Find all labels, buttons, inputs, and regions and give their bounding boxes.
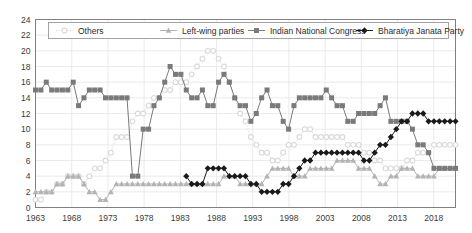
- data-point-marker: [432, 142, 437, 147]
- data-point-marker: [87, 174, 92, 179]
- data-point-marker: [388, 119, 393, 124]
- x-axis-tick-label: 1963: [26, 213, 45, 223]
- data-point-marker: [254, 28, 259, 33]
- data-point-marker: [44, 80, 49, 85]
- data-point-marker: [378, 158, 383, 163]
- y-axis-tick-label: 6: [26, 156, 31, 166]
- data-point-marker: [259, 189, 265, 195]
- data-point-marker: [286, 142, 291, 147]
- data-point-marker: [393, 126, 399, 132]
- data-point-marker: [452, 118, 458, 124]
- data-point-marker: [372, 149, 378, 155]
- legend-label-bjp: Bharatiya Janata Party: [378, 26, 465, 36]
- data-point-marker: [318, 95, 323, 100]
- election-seat-share-chart: 0246810121416182022241963196819731978198…: [0, 0, 472, 233]
- x-axis-tick-label: 1983: [171, 213, 190, 223]
- data-point-marker: [146, 127, 151, 132]
- y-axis-tick-label: 24: [21, 15, 31, 25]
- chart-legend: OthersLeft-wing partiesIndian National C…: [49, 23, 465, 39]
- data-point-marker: [221, 165, 227, 171]
- data-point-marker: [130, 174, 135, 179]
- data-point-marker: [329, 149, 335, 155]
- data-point-marker: [221, 72, 226, 77]
- legend-label-others: Others: [78, 26, 104, 36]
- data-point-marker: [184, 88, 189, 93]
- data-point-marker: [200, 88, 205, 93]
- data-point-marker: [62, 28, 67, 33]
- data-point-marker: [323, 149, 329, 155]
- data-point-marker: [372, 158, 377, 163]
- data-point-marker: [313, 135, 318, 140]
- data-point-marker: [243, 103, 248, 108]
- y-axis-tick-label: 16: [21, 77, 31, 87]
- data-point-marker: [329, 95, 334, 100]
- data-point-marker: [355, 149, 361, 155]
- data-point-marker: [141, 127, 146, 132]
- data-point-marker: [334, 149, 340, 155]
- data-point-marker: [335, 103, 340, 108]
- data-point-marker: [265, 150, 270, 155]
- data-point-marker: [98, 88, 103, 93]
- data-point-marker: [335, 135, 340, 140]
- data-point-marker: [388, 166, 393, 171]
- data-point-marker: [173, 80, 178, 85]
- data-point-marker: [415, 142, 420, 147]
- data-point-marker: [108, 150, 113, 155]
- y-axis-tick-label: 12: [21, 109, 31, 119]
- data-point-marker: [448, 142, 453, 147]
- data-point-marker: [377, 142, 383, 148]
- data-point-marker: [33, 197, 38, 202]
- data-point-marker: [103, 158, 108, 163]
- data-point-marker: [259, 95, 264, 100]
- data-point-marker: [366, 157, 372, 163]
- data-point-marker: [81, 95, 86, 100]
- data-point-marker: [420, 110, 426, 116]
- data-point-marker: [183, 173, 189, 179]
- data-point-marker: [125, 95, 130, 100]
- data-point-marker: [270, 103, 275, 108]
- data-point-marker: [361, 157, 367, 163]
- y-axis-tick-label: 10: [21, 124, 31, 134]
- data-point-marker: [280, 181, 286, 187]
- x-axis-tick-label: 2018: [424, 213, 443, 223]
- data-point-marker: [356, 142, 361, 147]
- data-point-marker: [130, 119, 135, 124]
- data-point-marker: [216, 56, 221, 61]
- data-point-marker: [200, 56, 205, 61]
- data-point-marker: [238, 103, 243, 108]
- data-point-marker: [340, 103, 345, 108]
- series-left_wing: [33, 158, 459, 202]
- data-point-marker: [453, 142, 458, 147]
- data-point-marker: [151, 103, 156, 108]
- data-point-marker: [141, 111, 146, 116]
- legend-label-congress: Indian National Congress: [270, 26, 365, 36]
- data-point-marker: [248, 119, 253, 124]
- data-point-marker: [431, 166, 436, 171]
- data-point-marker: [259, 150, 264, 155]
- y-axis-tick-label: 4: [26, 171, 31, 181]
- data-point-marker: [205, 103, 210, 108]
- data-point-marker: [351, 119, 356, 124]
- data-point-marker: [345, 149, 351, 155]
- data-point-marker: [302, 127, 307, 132]
- data-point-marker: [410, 127, 415, 132]
- x-axis-tick-label: 1988: [207, 213, 226, 223]
- data-point-marker: [286, 127, 291, 132]
- data-point-marker: [232, 95, 237, 100]
- x-axis-tick-label: 1978: [135, 213, 154, 223]
- data-point-marker: [453, 166, 458, 171]
- data-point-marker: [313, 95, 318, 100]
- data-point-marker: [383, 95, 388, 100]
- data-point-marker: [162, 80, 167, 85]
- data-point-marker: [426, 150, 431, 155]
- data-point-marker: [442, 166, 447, 171]
- data-point-marker: [437, 142, 442, 147]
- y-axis-tick-label: 0: [26, 203, 31, 213]
- data-point-marker: [297, 95, 302, 100]
- data-point-marker: [372, 111, 377, 116]
- data-point-marker: [210, 165, 216, 171]
- data-point-marker: [135, 174, 140, 179]
- data-point-marker: [108, 95, 113, 100]
- data-point-marker: [92, 88, 97, 93]
- data-point-marker: [308, 95, 313, 100]
